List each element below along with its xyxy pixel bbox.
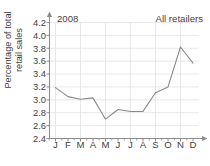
gridlines xyxy=(50,23,200,139)
axis-ticks xyxy=(47,23,194,142)
y-axis-arrow-icon xyxy=(47,12,52,18)
series-annotation: All retailers xyxy=(156,13,203,24)
axes xyxy=(47,12,208,142)
x-tick-label-december: D xyxy=(186,139,200,150)
data-series-line xyxy=(56,47,194,119)
chart-container: Percentage of total retail sales 2.42.62… xyxy=(0,0,210,166)
year-annotation: 2008 xyxy=(57,13,78,24)
x-axis-tick-labels: JFMAMJJASOND xyxy=(0,139,210,153)
